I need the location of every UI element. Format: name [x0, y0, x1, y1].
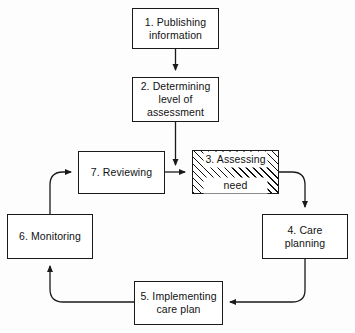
node-assessing-need-line1: 3. Assessing [205, 153, 265, 166]
node-publishing-information-label: 1. Publishing information [144, 16, 207, 42]
node-determining-level-of-assessment[interactable]: 2. Determining level of assessment [132, 77, 219, 122]
node-publishing-information[interactable]: 1. Publishing information [132, 8, 219, 49]
connector-5-to-6 [50, 266, 134, 302]
node-monitoring-label: 6. Monitoring [18, 230, 82, 243]
node-assessing-need-line2: need [205, 179, 265, 192]
node-reviewing[interactable]: 7. Reviewing [78, 151, 165, 194]
node-care-planning-label: 4. Care planning [284, 224, 327, 250]
connector-6-to-7 [50, 172, 71, 214]
node-assessing-need-label: 3. Assessing need [204, 140, 266, 205]
node-implementing-care-plan[interactable]: 5. Implementing care plan [134, 281, 223, 325]
node-determining-level-of-assessment-label: 2. Determining level of assessment [140, 80, 212, 119]
flowchart-canvas: 1. Publishing information 2. Determining… [0, 0, 355, 333]
node-assessing-need[interactable]: 3. Assessing need [192, 150, 279, 194]
node-care-planning[interactable]: 4. Care planning [262, 214, 348, 259]
node-monitoring[interactable]: 6. Monitoring [7, 214, 93, 259]
connector-4-to-5 [230, 259, 305, 302]
connector-3-to-4 [279, 172, 305, 207]
node-reviewing-label: 7. Reviewing [90, 166, 153, 179]
node-implementing-care-plan-label: 5. Implementing care plan [139, 290, 217, 316]
